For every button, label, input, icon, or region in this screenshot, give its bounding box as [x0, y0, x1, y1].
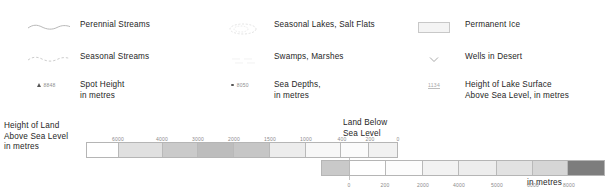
elevation-depth-scale: Height of Land Above Sea Level in metres…: [0, 112, 597, 195]
scale-band: [198, 143, 234, 157]
legend-label: Wells in Desert: [465, 52, 522, 63]
spot-height-value: 8848: [44, 82, 56, 88]
well-in-desert-icon: [403, 52, 465, 64]
legend-label: Sea Depths, in metres: [274, 80, 321, 101]
legend-item-wells-in-desert: Wells in Desert: [403, 52, 522, 64]
scale-band: [568, 161, 604, 175]
tick-label: 4000: [453, 182, 465, 188]
scale-band: [341, 143, 369, 157]
scale-band: [270, 143, 306, 157]
scale-band: [386, 161, 424, 175]
legend-label: Seasonal Lakes, Salt Flats: [274, 20, 375, 31]
legend-item-permanent-ice: Permanent Ice: [403, 20, 520, 33]
legend-label: Seasonal Streams: [80, 52, 149, 63]
scale-band: [350, 161, 386, 175]
scale-band: [423, 161, 459, 175]
scale-band: [322, 161, 350, 175]
legend-label: Spot Height in metres: [80, 80, 124, 101]
seasonal-lake-outline-icon: [212, 20, 274, 36]
scale-band: [119, 143, 163, 157]
height-of-land-caption: Height of Land Above Sea Level in metres: [4, 121, 68, 153]
legend-item-seasonal-lakes: Seasonal Lakes, Salt Flats: [212, 20, 375, 36]
elevation-color-bar: [86, 142, 398, 158]
tick-label: 8000: [563, 182, 575, 188]
spot-height-triangle-icon: 8848: [18, 80, 80, 88]
seasonal-stream-dashed-line-icon: [18, 52, 80, 64]
sea-depth-value: 8050: [237, 82, 249, 88]
tick-label: 200: [381, 182, 390, 188]
tick-label: 0: [348, 182, 351, 188]
legend-item-spot-height: 8848 Spot Height in metres: [18, 80, 124, 101]
lake-surface-height-icon: 1134: [403, 80, 465, 88]
legend-item-perennial-streams: Perennial Streams: [18, 20, 150, 32]
depth-color-bar: [321, 160, 605, 176]
permanent-ice-swatch-icon: [403, 20, 465, 33]
elevation-tick-labels: 6000400030002000150010004002000: [86, 130, 398, 142]
legend-item-seasonal-streams: Seasonal Streams: [18, 52, 149, 64]
scale-band: [533, 161, 569, 175]
legend-label: Permanent Ice: [465, 20, 520, 31]
scale-band: [306, 143, 342, 157]
triangle-marker-icon: [37, 83, 41, 87]
legend-label: Swamps, Marshes: [274, 52, 344, 63]
perennial-stream-line-icon: [18, 20, 80, 32]
legend-label: Perennial Streams: [80, 20, 150, 31]
dot-marker-icon: [231, 84, 234, 87]
swamp-marsh-icon: [212, 52, 274, 68]
scale-band: [497, 161, 533, 175]
legend-item-swamps-marshes: Swamps, Marshes: [212, 52, 344, 68]
scale-band: [163, 143, 199, 157]
scale-band: [369, 143, 397, 157]
scale-band: [87, 143, 119, 157]
tick-label: 5000: [491, 182, 503, 188]
legend-item-sea-depths: 8050 Sea Depths, in metres: [212, 80, 321, 101]
scale-band: [234, 143, 270, 157]
legend-item-lake-surface-height: 1134 Height of Lake Surface Above Sea Le…: [403, 80, 569, 101]
tick-label: 6000: [527, 182, 539, 188]
sea-depth-dot-icon: 8050: [212, 80, 274, 88]
legend-label: Height of Lake Surface Above Sea Level, …: [465, 80, 569, 101]
tick-label: 2000: [417, 182, 429, 188]
scale-band: [459, 161, 497, 175]
symbol-legend-grid: Perennial Streams Seasonal Streams 8848 …: [0, 8, 597, 108]
lake-surface-value: 1134: [428, 82, 440, 88]
